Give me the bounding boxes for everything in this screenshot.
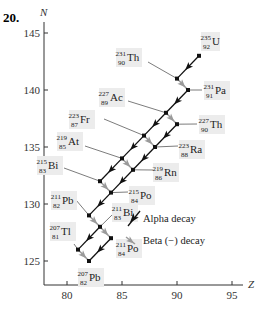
mass-number: 227 [199, 117, 210, 125]
nuclide-label-tl207: 20781Tl [50, 222, 77, 241]
y-tick-label: 145 [24, 27, 41, 39]
nuclide-label-ac227: 22789Ac [99, 88, 126, 107]
nuclide-labels: 23592U23190Th23191Pa22789Ac22790Th22387F… [37, 32, 231, 287]
element-symbol: Po [140, 189, 152, 201]
nuclide-label-th227: 22790Th [199, 115, 226, 134]
y-tick-label: 140 [24, 84, 41, 96]
element-symbol: Ac [110, 91, 123, 103]
atomic-number: 83 [39, 167, 47, 175]
atomic-number: 85 [59, 143, 67, 151]
nuclide-label-po211: 21184Po [116, 239, 142, 258]
atomic-number: 90 [118, 59, 126, 67]
mass-number: 211 [51, 193, 62, 201]
nuclide-point [131, 168, 135, 172]
atomic-number: 90 [201, 126, 209, 134]
mass-number: 235 [201, 34, 212, 42]
atomic-number: 82 [80, 279, 88, 287]
mass-number: 219 [57, 134, 68, 142]
nuclide-point [164, 111, 168, 115]
element-symbol: Bi [123, 206, 133, 218]
nuclide-label-th231: 23190Th [116, 48, 143, 67]
nuclide-point [76, 248, 80, 252]
element-symbol: At [68, 135, 79, 147]
atomic-number: 83 [114, 214, 122, 222]
nuclide-label-pb207: 20782Pb [78, 268, 105, 287]
mass-number: 223 [179, 142, 190, 150]
nuclide-point [175, 77, 179, 81]
atomic-number: 84 [118, 250, 126, 258]
atomic-number: 81 [52, 233, 60, 241]
atomic-number: 89 [101, 99, 109, 107]
y-tick-label: 125 [24, 255, 41, 267]
nuclide-point [120, 156, 124, 160]
nuclide-label-ra223: 22388Ra [179, 140, 206, 159]
nuclide-label-pb211: 21182Pb [51, 191, 77, 210]
mass-number: 211 [116, 241, 127, 249]
atomic-number: 86 [155, 174, 163, 182]
element-symbol: U [212, 35, 220, 47]
mass-number: 231 [116, 50, 127, 58]
atomic-number: 91 [206, 92, 214, 100]
element-symbol: Pa [215, 84, 226, 96]
y-tick-label: 130 [24, 198, 41, 210]
mass-number: 231 [204, 83, 215, 91]
x-tick-label: 90 [172, 289, 184, 301]
x-axis-title: Z [248, 278, 255, 290]
mass-number: 211 [112, 205, 123, 213]
element-symbol: Th [127, 51, 140, 63]
atomic-number: 87 [71, 121, 79, 129]
nuclide-point [87, 259, 91, 263]
nuclide-point [197, 54, 201, 58]
element-symbol: Pb [89, 271, 101, 283]
atomic-number: 88 [181, 151, 189, 159]
element-symbol: Po [127, 242, 139, 254]
element-symbol: Rn [164, 166, 177, 178]
element-symbol: Pb [62, 194, 74, 206]
nuclide-point [109, 236, 113, 240]
nuclide-label-fr223: 22387Fr [69, 110, 96, 129]
nuclide-point [109, 191, 113, 195]
mass-number: 207 [78, 270, 89, 278]
nuclide-point [175, 122, 179, 126]
element-symbol: Tl [61, 225, 71, 237]
mass-number: 223 [69, 112, 80, 120]
mass-number: 207 [50, 224, 61, 232]
nuclide-label-pa231: 23191Pa [204, 81, 231, 100]
nuclide-point [87, 213, 91, 217]
nuclide-label-rn219: 21986Rn [153, 163, 180, 182]
mass-number: 215 [37, 158, 48, 166]
element-symbol: Th [210, 118, 223, 130]
legend-alpha-label: Alpha decay [143, 213, 197, 224]
nuclide-point [186, 88, 190, 92]
y-tick-label: 135 [24, 141, 41, 153]
nuclide-point [98, 179, 102, 183]
y-axis-title: N [39, 6, 48, 18]
x-tick-label: 95 [227, 289, 239, 301]
legend-beta-label: Beta (−) decay [143, 235, 206, 247]
nuclide-label-bi215: 21583Bi [37, 156, 64, 175]
x-tick-label: 80 [62, 289, 74, 301]
mass-number: 227 [99, 90, 110, 98]
nuclide-point [142, 134, 146, 138]
nuclide-label-at219: 21985At [57, 132, 84, 151]
mass-number: 215 [129, 188, 140, 196]
nuclide-label-u235: 23592U [201, 32, 221, 51]
x-tick-label: 85 [117, 289, 129, 301]
element-symbol: Fr [80, 113, 90, 125]
atomic-number: 92 [203, 43, 211, 51]
mass-number: 219 [153, 165, 164, 173]
nuclide-label-po215: 21584Po [129, 186, 156, 205]
nuclide-point [153, 145, 157, 149]
nuclide-point [98, 225, 102, 229]
element-symbol: Bi [48, 159, 58, 171]
decay-chain-chart: 80859095125130135140145ZN 23592U23190Th2… [0, 0, 265, 310]
atomic-number: 82 [53, 202, 61, 210]
element-symbol: Ra [190, 143, 202, 155]
